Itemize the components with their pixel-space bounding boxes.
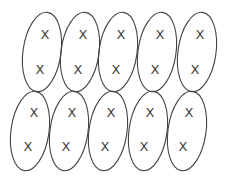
x-mark: X	[117, 27, 126, 42]
ellipse-outline	[124, 89, 173, 174]
ellipse-cell: XX	[163, 89, 212, 174]
ellipse-cell: XX	[18, 10, 67, 95]
x-mark: X	[107, 105, 116, 120]
x-mark: X	[185, 105, 194, 120]
x-mark: X	[68, 105, 77, 120]
ellipse-cell: XX	[94, 10, 143, 95]
x-mark: X	[74, 62, 83, 77]
ellipse-outline	[84, 89, 133, 174]
x-mark: X	[30, 105, 39, 120]
x-mark: X	[41, 27, 50, 42]
ellipse-outline	[173, 10, 222, 95]
x-mark: X	[196, 27, 205, 42]
x-mark: X	[140, 139, 149, 154]
ellipse-outline	[56, 10, 105, 95]
ellipse-cell: XX	[133, 10, 182, 95]
ellipse-cell: XX	[84, 89, 133, 174]
x-mark: X	[151, 62, 160, 77]
x-mark: X	[36, 62, 45, 77]
ellipse-cell: XX	[56, 10, 105, 95]
x-mark: X	[62, 139, 71, 154]
x-mark: X	[156, 27, 165, 42]
x-mark: X	[146, 105, 155, 120]
ellipse-outline	[45, 89, 94, 174]
ellipse-outline	[133, 10, 182, 95]
ellipse-outline	[163, 89, 212, 174]
ellipse-cell: XX	[45, 89, 94, 174]
ellipse-outline	[18, 10, 67, 95]
ellipse-cell: XX	[173, 10, 222, 95]
top-row: XXXXXXXXXX	[18, 10, 222, 95]
ellipse-outline	[94, 10, 143, 95]
x-mark: X	[79, 27, 88, 42]
x-mark: X	[179, 139, 188, 154]
x-mark: X	[101, 139, 110, 154]
ellipse-cell: XX	[124, 89, 173, 174]
x-mark: X	[24, 139, 33, 154]
bottom-row: XXXXXXXXXX	[6, 89, 212, 174]
ellipse-diagram: XXXXXXXXXXXXXXXXXXXX	[0, 0, 228, 183]
ellipse-outline	[6, 89, 55, 174]
x-mark: X	[112, 62, 121, 77]
ellipse-cell: XX	[6, 89, 55, 174]
x-mark: X	[191, 62, 200, 77]
